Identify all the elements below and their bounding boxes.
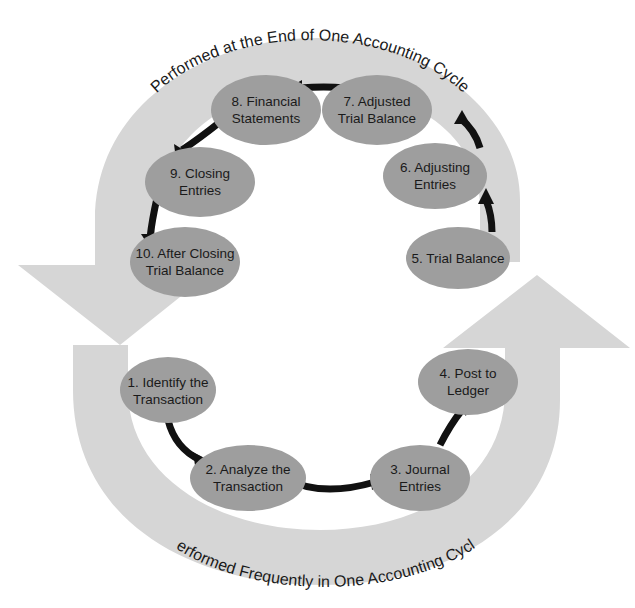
step-label: 4. Post to: [439, 366, 496, 381]
step-9-node: 9. Closing Entries: [145, 147, 255, 217]
step-5-node: 5. Trial Balance: [406, 227, 510, 289]
step-label: 3. Journal: [390, 462, 449, 477]
step-label: 5. Trial Balance: [411, 251, 504, 266]
step-6-node: 6. Adjusting Entries: [383, 143, 487, 209]
step-label: 10. After Closing: [135, 246, 234, 261]
step-2-node: 2. Analyze the Transaction: [190, 445, 306, 511]
step-label: Statements: [232, 111, 301, 126]
step-label: 7. Adjusted: [344, 94, 411, 109]
step-8-node: 8. Financial Statements: [211, 75, 321, 145]
step-label: Trial Balance: [338, 111, 416, 126]
step-label: Entries: [179, 183, 221, 198]
step-label: 1. Identify the: [127, 375, 208, 390]
step-label: Trial Balance: [146, 263, 224, 278]
step-10-node: 10. After Closing Trial Balance: [130, 227, 240, 297]
step-4-node: 4. Post to Ledger: [418, 349, 518, 415]
step-7-node: 7. Adjusted Trial Balance: [322, 75, 432, 145]
step-label: Entries: [414, 177, 456, 192]
step-label: Ledger: [447, 383, 490, 398]
step-label: Entries: [399, 479, 441, 494]
step-label: Transaction: [133, 392, 203, 407]
bottom-band-shape: [73, 275, 630, 585]
step-3-node: 3. Journal Entries: [370, 445, 470, 511]
step-label: 6. Adjusting: [400, 160, 470, 175]
step-1-node: 1. Identify the Transaction: [120, 357, 216, 423]
step-label: 2. Analyze the: [206, 462, 291, 477]
step-label: 9. Closing: [170, 166, 230, 181]
accounting-cycle-diagram: Performed at the End of One Accounting C…: [0, 0, 635, 608]
arrow-3-to-4: [440, 410, 462, 445]
step-label: 8. Financial: [231, 94, 300, 109]
step-label: Transaction: [213, 479, 283, 494]
